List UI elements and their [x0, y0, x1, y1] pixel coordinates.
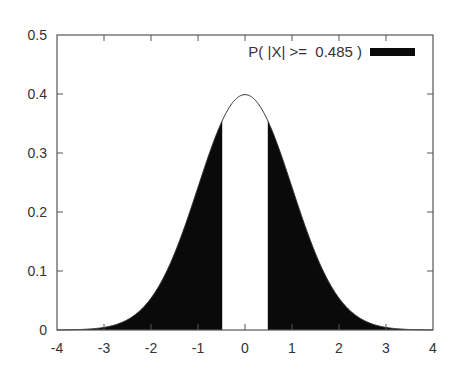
x-axis-tick-labels: -4-3-2-101234: [51, 340, 437, 356]
y-tick-label: 0.3: [28, 145, 48, 161]
shaded-tail-regions: [57, 121, 433, 330]
x-tick-label: 1: [288, 340, 296, 356]
x-tick-label: 0: [241, 340, 249, 356]
normal-distribution-chart: -4-3-2-101234 00.10.20.30.40.5 P( |X| >=…: [0, 0, 462, 370]
y-tick-label: 0.4: [28, 86, 48, 102]
y-tick-label: 0.1: [28, 263, 48, 279]
left-tail-shade: [57, 121, 222, 330]
x-tick-label: 4: [429, 340, 437, 356]
y-tick-label: 0.2: [28, 204, 48, 220]
right-tail-shade: [268, 121, 433, 330]
x-tick-label: -1: [192, 340, 205, 356]
plot-frame: [57, 35, 433, 330]
legend-label: P( |X| >= 0.485 ): [248, 43, 362, 60]
y-axis-tick-labels: 00.10.20.30.40.5: [28, 27, 48, 338]
y-tick-label: 0: [39, 322, 47, 338]
x-tick-label: -2: [145, 340, 158, 356]
x-tick-label: 2: [335, 340, 343, 356]
axis-ticks: [57, 35, 433, 330]
x-tick-label: -4: [51, 340, 64, 356]
x-tick-label: 3: [382, 340, 390, 356]
pdf-curve: [57, 95, 433, 330]
legend-swatch: [370, 48, 415, 56]
legend: P( |X| >= 0.485 ): [248, 43, 415, 60]
x-tick-label: -3: [98, 340, 111, 356]
y-tick-label: 0.5: [28, 27, 48, 43]
